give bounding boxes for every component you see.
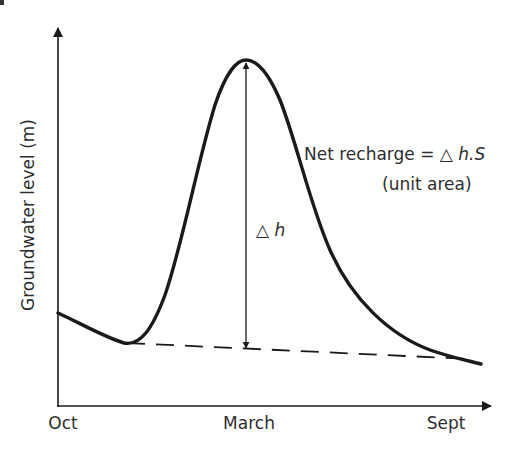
x-tick-march: March (223, 415, 275, 432)
net-recharge-label: Net recharge = △ h.S (304, 146, 485, 163)
net-recharge-delta-symbol: △ (440, 144, 453, 164)
delta-symbol: △ (256, 220, 269, 240)
x-tick-oct: Oct (48, 415, 77, 432)
delta-variable: h (274, 220, 285, 240)
y-axis-label: Groundwater level (m) (20, 119, 37, 311)
net-recharge-prefix: Net recharge = (304, 144, 440, 164)
delta-h-label: △ h (256, 222, 285, 239)
x-tick-sept: Sept (427, 415, 466, 432)
unit-area-label: (unit area) (382, 176, 472, 193)
net-recharge-variable: h.S (458, 144, 485, 164)
hydrograph-curve (58, 60, 481, 364)
